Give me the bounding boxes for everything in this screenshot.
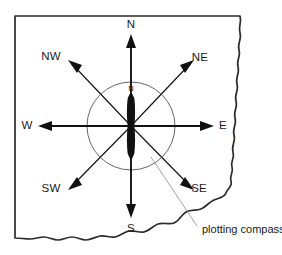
compass-needle-pivot (128, 123, 134, 129)
direction-label-south: S (127, 222, 135, 234)
plotting-compass-callout-label: plotting compass (202, 223, 282, 235)
compass-diagram-canvas: N N NE E SE S SW W NW plotting compass (0, 0, 282, 255)
direction-label-northeast: NE (192, 51, 209, 63)
direction-label-northwest: NW (41, 50, 61, 62)
direction-label-west: W (21, 119, 32, 131)
direction-label-southwest: SW (42, 182, 61, 194)
compass-dial-north-label: N (128, 84, 133, 93)
direction-label-north: N (127, 18, 136, 30)
direction-label-east: E (219, 119, 227, 131)
compass-diagram-figure: N N NE E SE S SW W NW plotting compass (0, 0, 282, 255)
direction-label-southeast: SE (191, 182, 207, 194)
compass-needle (127, 93, 135, 159)
